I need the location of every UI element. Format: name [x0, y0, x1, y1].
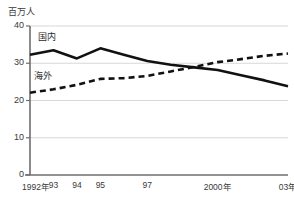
series-line-0 — [30, 48, 288, 86]
x-tick-label-1992年: 1992年 — [22, 180, 50, 192]
series-label-0: 国内 — [38, 30, 56, 43]
series-line-1 — [30, 54, 288, 93]
x-tick-label-93: 93 — [49, 180, 58, 190]
x-tick-label-95: 95 — [96, 180, 105, 190]
line-chart: 百万人 010203040 1992年939495972000年03年 国内海外 — [0, 0, 294, 202]
series-label-1: 海外 — [34, 69, 52, 82]
y-tick-label-0: 0 — [2, 169, 24, 179]
x-tick-label-2000年: 2000年 — [204, 180, 232, 192]
y-tick-label-30: 30 — [2, 57, 24, 67]
y-tick-label-40: 40 — [2, 20, 24, 30]
x-tick-label-94: 94 — [72, 180, 81, 190]
x-tick-label-97: 97 — [143, 180, 152, 190]
x-tick-label-03年: 03年 — [279, 180, 294, 192]
y-tick-label-10: 10 — [2, 132, 24, 142]
y-tick-label-20: 20 — [2, 95, 24, 105]
